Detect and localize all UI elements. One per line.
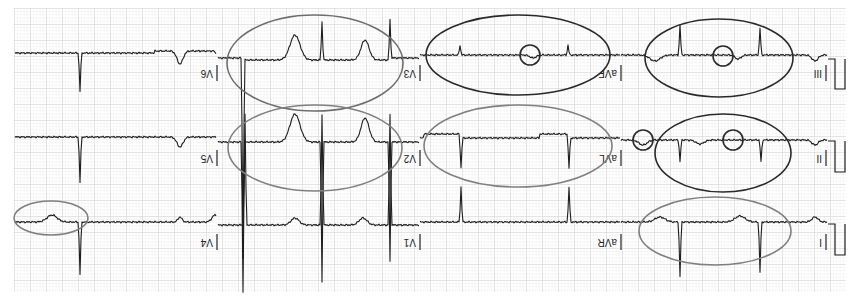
- lead-label-ii: II: [816, 153, 822, 164]
- lead-label-v4: V4: [200, 237, 213, 248]
- lead-label-v1: V1: [403, 237, 416, 248]
- grid-paper: [14, 8, 846, 292]
- ecg-strip: V6V3aVFIIIV5V2aVLIIV4V1aVRI: [0, 0, 851, 302]
- lead-label-v3: V3: [403, 68, 416, 79]
- lead-label-avf: aVF: [599, 68, 617, 79]
- lead-label-v5: V5: [200, 153, 213, 164]
- lead-label-avr: aVR: [598, 237, 617, 248]
- lead-label-v6: V6: [200, 68, 213, 79]
- lead-label-v2: V2: [403, 153, 416, 164]
- lead-label-i: I: [819, 237, 822, 248]
- lead-label-iii: III: [814, 68, 822, 79]
